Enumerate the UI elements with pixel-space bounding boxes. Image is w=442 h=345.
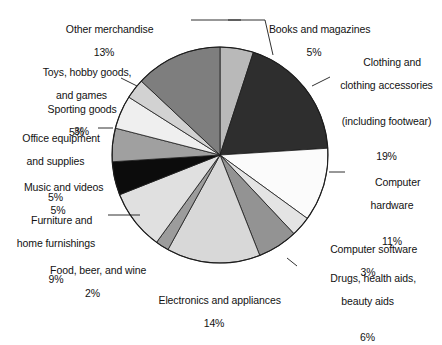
label-electronics-and-appliances-line-0: Electronics and appliances <box>158 294 280 306</box>
label-sporting-goods-line-0: Sporting goods <box>48 103 117 115</box>
label-drugs-health-aids-beauty-aids-percent: 6% <box>300 332 435 344</box>
label-clothing-and-clothing-accessories-percent: 19% <box>331 151 442 163</box>
label-furniture-and-home-furnishings-line-0: Furniture and <box>31 214 92 226</box>
leader-line-drugs-health-aids-beauty-aids <box>287 258 297 266</box>
label-clothing-and-clothing-accessories-line-2: (including footwear) <box>331 116 442 128</box>
label-office-equipment-and-supplies-line-1: and supplies <box>2 156 109 168</box>
label-electronics-and-appliances: Electronics and appliances 14% <box>138 283 290 345</box>
label-food-beer-and-wine: Food, beer, and wine 2% <box>30 253 155 324</box>
label-music-and-videos-line-0: Music and videos <box>24 181 104 193</box>
label-electronics-and-appliances-percent: 14% <box>138 318 290 330</box>
label-books-and-magazines-line-0: Books and magazines <box>269 23 370 35</box>
label-toys-hobby-goods-and-games-line-0: Toys, hobby goods, <box>43 66 132 78</box>
label-other-merchandise-line-0: Other merchandise <box>66 23 154 35</box>
label-food-beer-and-wine-percent: 2% <box>30 288 155 300</box>
label-furniture-and-home-furnishings-line-1: home furnishings <box>2 238 110 250</box>
label-computer-hardware-percent: 11% <box>348 236 436 248</box>
label-food-beer-and-wine-line-0: Food, beer, and wine <box>50 264 146 276</box>
label-books-and-magazines-percent: 5% <box>244 47 384 59</box>
label-office-equipment-and-supplies-line-0: Office equipment <box>22 132 100 144</box>
label-computer-hardware-line-1: hardware <box>348 200 436 212</box>
label-books-and-magazines: Books and magazines 5% <box>244 12 384 83</box>
